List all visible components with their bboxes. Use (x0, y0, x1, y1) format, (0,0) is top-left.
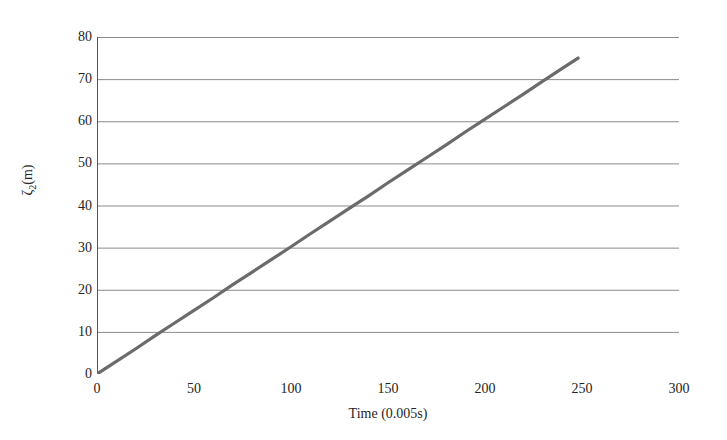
x-tick-label-250: 250 (552, 381, 612, 397)
x-axis-title: Time (0.005s) (97, 406, 679, 422)
y-tick-label-60: 60 (52, 113, 92, 129)
x-tick-label-50: 50 (164, 381, 224, 397)
y-tick-label-50: 50 (52, 155, 92, 171)
x-tick-label-300: 300 (649, 381, 709, 397)
data-series-group (97, 58, 578, 374)
x-tick-label-200: 200 (455, 381, 515, 397)
y-axis-title-unit: (m) (20, 165, 35, 185)
gridlines (97, 38, 679, 375)
x-axis-tick-labels: 050100150200250300 (0, 381, 727, 403)
y-tick-label-10: 10 (52, 324, 92, 340)
y-axis-title: ζ2(m) (16, 130, 40, 230)
y-axis-title-subscript: 2 (27, 185, 38, 190)
y-tick-label-80: 80 (52, 29, 92, 45)
series-line-zeta2 (97, 58, 578, 374)
plot-canvas (97, 37, 679, 374)
x-tick-label-150: 150 (358, 381, 418, 397)
x-tick-label-0: 0 (67, 381, 127, 397)
y-tick-label-70: 70 (52, 71, 92, 87)
y-tick-label-20: 20 (52, 282, 92, 298)
plot-area (97, 37, 679, 374)
chart-figure: ζ2(m) 01020304050607080 0501001502002503… (0, 0, 727, 440)
y-tick-label-30: 30 (52, 240, 92, 256)
y-axis-title-symbol: ζ (20, 190, 35, 196)
y-axis-tick-labels: 01020304050607080 (48, 0, 92, 440)
y-tick-label-40: 40 (52, 198, 92, 214)
x-tick-label-100: 100 (261, 381, 321, 397)
y-tick-label-0: 0 (52, 366, 92, 382)
